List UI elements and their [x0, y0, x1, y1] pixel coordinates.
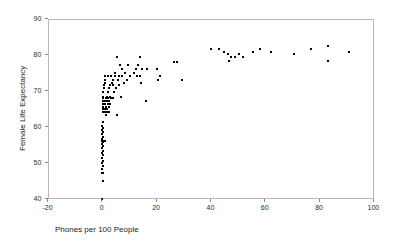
data-point: [101, 129, 103, 131]
y-tick-label: 40: [34, 195, 42, 203]
y-tick-label: 70: [34, 87, 42, 95]
data-point: [181, 79, 183, 81]
data-point: [102, 145, 104, 147]
data-point: [218, 48, 220, 50]
y-tick-mark: [45, 54, 48, 55]
data-point: [101, 125, 103, 127]
data-point: [118, 75, 120, 77]
data-point: [141, 68, 143, 70]
data-point: [102, 127, 104, 129]
data-point: [115, 87, 117, 89]
data-point: [176, 61, 178, 63]
data-point: [108, 111, 110, 113]
data-point: [104, 79, 106, 81]
data-point: [139, 56, 141, 58]
plot-area: [48, 19, 374, 199]
data-point: [252, 51, 254, 53]
data-point: [129, 75, 131, 77]
data-point: [123, 82, 125, 84]
x-tick-label: 0: [100, 204, 104, 212]
data-point: [293, 53, 295, 55]
data-point: [101, 157, 103, 159]
y-tick-label: 50: [34, 159, 42, 167]
data-point: [327, 60, 329, 62]
x-tick-label: 40: [207, 204, 215, 212]
data-point: [310, 48, 312, 50]
data-point: [102, 131, 104, 133]
data-point: [327, 45, 329, 47]
data-point: [101, 133, 103, 135]
data-point: [126, 79, 128, 81]
data-point: [117, 79, 119, 81]
x-tick-mark: [156, 199, 157, 202]
data-point: [104, 82, 106, 84]
data-point: [116, 114, 118, 116]
data-point: [108, 106, 110, 108]
data-point: [159, 75, 161, 77]
data-point: [102, 136, 104, 138]
data-point: [106, 108, 108, 110]
x-tick-mark: [319, 199, 320, 202]
data-point: [242, 56, 244, 58]
data-point: [110, 75, 112, 77]
data-point: [114, 75, 116, 77]
data-point: [121, 68, 123, 70]
data-point: [119, 64, 121, 66]
data-point: [102, 91, 104, 93]
x-tick-label: 60: [261, 204, 269, 212]
data-point: [157, 79, 159, 81]
data-point: [133, 72, 135, 74]
data-point: [101, 147, 103, 149]
data-point: [136, 75, 138, 77]
data-point: [104, 75, 106, 77]
data-point: [259, 48, 261, 50]
data-point: [135, 68, 137, 70]
data-point: [112, 79, 114, 81]
data-point: [106, 96, 108, 98]
data-point: [102, 106, 104, 108]
data-point: [238, 53, 240, 55]
scatter-plot-figure: -20020406080100 405060708090 Phones per …: [0, 0, 401, 243]
data-point: [102, 180, 104, 182]
data-point: [102, 154, 104, 156]
data-point: [137, 64, 139, 66]
data-point: [227, 53, 229, 55]
data-point: [234, 56, 236, 58]
x-tick-label: 80: [315, 204, 323, 212]
data-point: [102, 172, 104, 174]
data-point: [103, 87, 105, 89]
data-point: [173, 61, 175, 63]
data-point: [109, 84, 111, 86]
data-point: [107, 75, 109, 77]
x-tick-mark: [373, 199, 374, 202]
data-point: [111, 82, 113, 84]
data-point: [121, 75, 123, 77]
data-point: [109, 96, 111, 98]
y-tick-mark: [45, 126, 48, 127]
data-point: [102, 96, 104, 98]
data-point: [124, 72, 126, 74]
y-tick-label: 90: [34, 15, 42, 23]
y-tick-mark: [45, 90, 48, 91]
x-axis-title: Phones per 100 People: [55, 225, 139, 234]
x-tick-mark: [210, 199, 211, 202]
data-point: [101, 162, 103, 164]
data-point: [228, 60, 230, 62]
data-point: [223, 51, 225, 53]
y-tick-mark: [45, 162, 48, 163]
x-tick-label: 20: [152, 204, 160, 212]
y-tick-label: 60: [34, 123, 42, 131]
data-point: [156, 68, 158, 70]
data-point: [109, 103, 111, 105]
data-point: [105, 114, 107, 116]
data-point: [116, 56, 118, 58]
data-point: [107, 91, 109, 93]
y-tick-mark: [45, 198, 48, 199]
data-point: [102, 103, 104, 105]
x-tick-mark: [101, 199, 102, 202]
data-point: [118, 84, 120, 86]
data-point: [108, 87, 110, 89]
data-point: [112, 97, 114, 99]
data-point: [102, 121, 104, 123]
x-tick-label: -20: [43, 204, 53, 212]
